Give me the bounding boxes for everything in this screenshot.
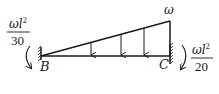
support-label-c: C <box>159 57 169 72</box>
support-label-b: B <box>39 59 50 74</box>
svg-text:ωl2: ωl2 <box>9 16 27 31</box>
moment-arrow-c-icon <box>181 45 186 69</box>
beam-diagram: ω B C ωl2 30 ωl2 20 <box>0 0 219 94</box>
load-label: ω <box>164 3 174 17</box>
moment-c-value: ωl2 20 <box>191 42 213 74</box>
moment-b-value: ωl2 30 <box>7 16 30 48</box>
svg-text:ωl2: ωl2 <box>192 42 210 57</box>
svg-text:30: 30 <box>11 33 24 48</box>
fixed-support-c <box>170 43 173 64</box>
svg-text:20: 20 <box>195 59 208 74</box>
triangular-load <box>41 21 170 56</box>
moment-arrow-b-icon <box>26 46 31 68</box>
